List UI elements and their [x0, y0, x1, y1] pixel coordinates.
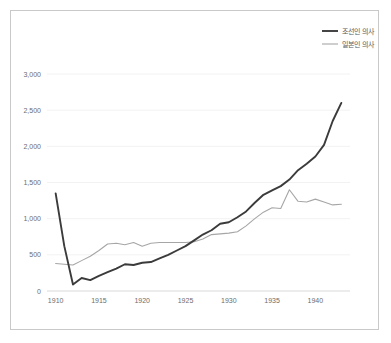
- x-axis-tick-label: 1920: [134, 297, 150, 304]
- y-axis-tick-label: 500: [29, 251, 41, 258]
- series-line-japanese: [56, 190, 342, 265]
- x-axis-tick-label: 1930: [221, 297, 237, 304]
- x-axis-tick-label: 1940: [308, 297, 324, 304]
- series-line-korean: [56, 103, 342, 285]
- x-axis-tick-label: 1935: [264, 297, 280, 304]
- y-axis-tick-label: 3,000: [23, 71, 41, 78]
- y-axis-tick-label: 2,500: [23, 107, 41, 114]
- legend-label-japanese: 일본인 의사: [342, 40, 375, 49]
- x-axis-tick-label: 1910: [48, 297, 64, 304]
- y-axis-tick-label: 0: [37, 288, 41, 295]
- x-axis-tick-labels: 1910191519201925193019351940: [48, 297, 323, 304]
- legend-label-korean: 조선인 의사: [342, 27, 375, 36]
- y-axis-tick-label: 1,000: [23, 215, 41, 222]
- y-axis-tick-label: 2,000: [23, 143, 41, 150]
- legend: 조선인 의사 일본인 의사: [322, 27, 375, 49]
- x-axis-tick-label: 1925: [178, 297, 194, 304]
- line-chart: 05001,0001,5002,0002,5003,000 1910191519…: [0, 0, 391, 343]
- y-axis-tick-label: 1,500: [23, 179, 41, 186]
- x-axis-tick-label: 1915: [91, 297, 107, 304]
- y-axis-tick-labels: 05001,0001,5002,0002,5003,000: [23, 71, 41, 295]
